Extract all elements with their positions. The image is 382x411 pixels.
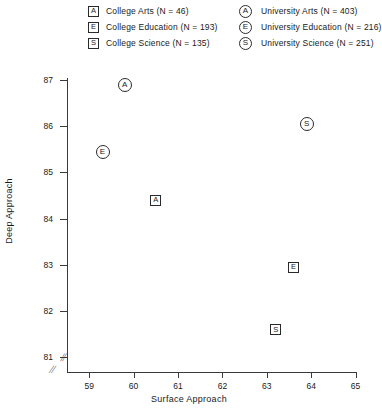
y-axis-title: Deep Approach (4, 161, 14, 261)
legend-item-college-education: E College Education (N = 193) (88, 19, 218, 35)
legend-item-label: College Education (N = 193) (106, 22, 218, 32)
x-tick-mark (267, 372, 268, 378)
x-tick-mark (222, 372, 223, 378)
legend-item-university-science: S University Science (N = 251) (239, 35, 382, 51)
x-tick-label: 61 (168, 381, 188, 391)
y-tick-label: 85 (33, 167, 53, 177)
data-point-college-arts: A (150, 195, 161, 206)
y-tick-label: 87 (33, 75, 53, 85)
legend-item-label: College Science (N = 135) (106, 38, 210, 48)
y-tick-label: 84 (33, 214, 53, 224)
legend-item-university-education: E University Education (N = 216) (239, 19, 382, 35)
y-tick-mark (60, 80, 67, 81)
data-point-university-science: S (300, 117, 314, 131)
square-marker-e-icon: E (88, 22, 99, 33)
x-tick-mark (89, 372, 90, 378)
square-marker-s-icon: S (88, 38, 99, 49)
legend-column-university: A University Arts (N = 403) E University… (239, 3, 382, 51)
legend-item-label: College Arts (N = 46) (106, 6, 189, 16)
x-tick-mark (311, 372, 312, 378)
legend-item-label: University Science (N = 251) (261, 38, 374, 48)
legend-item-university-arts: A University Arts (N = 403) (239, 3, 382, 19)
y-axis-line (67, 78, 68, 372)
y-tick-mark (60, 126, 67, 127)
legend-item-college-science: S College Science (N = 135) (88, 35, 218, 51)
y-tick-label: 81 (33, 352, 53, 362)
y-tick-label: 82 (33, 306, 53, 316)
data-point-university-education: E (96, 145, 110, 159)
legend-item-label: University Arts (N = 403) (261, 6, 358, 16)
legend-item-college-arts: A College Arts (N = 46) (88, 3, 218, 19)
square-marker-a-icon: A (88, 6, 99, 17)
legend: A College Arts (N = 46) E College Educat… (0, 0, 378, 56)
data-point-university-arts: A (118, 78, 132, 92)
circle-marker-s-icon: S (239, 37, 252, 50)
y-tick-label: 83 (33, 260, 53, 270)
y-tick-mark (60, 172, 67, 173)
x-tick-label: 59 (79, 381, 99, 391)
circle-marker-e-icon: E (239, 21, 252, 34)
x-tick-mark (356, 372, 357, 378)
x-axis-break-icon: // (48, 364, 56, 375)
x-tick-label: 60 (124, 381, 144, 391)
legend-column-college: A College Arts (N = 46) E College Educat… (88, 3, 218, 51)
x-tick-label: 65 (346, 381, 366, 391)
legend-item-label: University Education (N = 216) (261, 22, 382, 32)
data-point-college-science: S (270, 324, 281, 335)
plot-area: 87868584838281 59606162636465 // // Surf… (0, 56, 378, 411)
data-point-college-education: E (288, 262, 299, 273)
x-tick-mark (134, 372, 135, 378)
y-tick-mark (60, 219, 67, 220)
x-axis-line (67, 372, 356, 373)
x-tick-label: 64 (301, 381, 321, 391)
y-tick-mark (60, 311, 67, 312)
circle-marker-a-icon: A (239, 5, 252, 18)
y-tick-mark (60, 265, 67, 266)
y-tick-label: 86 (33, 121, 53, 131)
x-tick-mark (178, 372, 179, 378)
x-tick-label: 62 (212, 381, 232, 391)
x-tick-label: 63 (257, 381, 277, 391)
x-axis-title: Surface Approach (0, 394, 378, 404)
